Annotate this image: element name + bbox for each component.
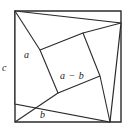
geometry-figure: c a b a − b	[0, 0, 124, 135]
label-a: a	[24, 50, 29, 60]
label-c: c	[2, 63, 6, 73]
figure-canvas	[0, 0, 124, 135]
label-b: b	[40, 110, 45, 120]
label-a-minus-b: a − b	[60, 71, 84, 81]
